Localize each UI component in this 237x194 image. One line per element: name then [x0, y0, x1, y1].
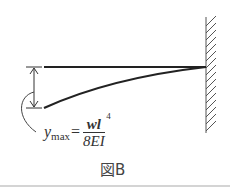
formula-denominator: 8EI: [83, 133, 105, 149]
formula-subscript: max: [51, 130, 70, 142]
numerator-text: wl: [87, 116, 101, 132]
formula-numerator: wl4: [83, 117, 105, 133]
figure-caption: 図B: [100, 158, 125, 179]
deflection-formula: ymax=wl48EI: [44, 117, 105, 149]
formula-equals: =: [71, 123, 80, 140]
numerator-exponent: 4: [106, 112, 111, 121]
fixed-wall: [206, 16, 216, 133]
formula-fraction: wl48EI: [83, 117, 105, 149]
beam-deflected: [44, 67, 206, 108]
deflection-dimension: [26, 67, 42, 108]
